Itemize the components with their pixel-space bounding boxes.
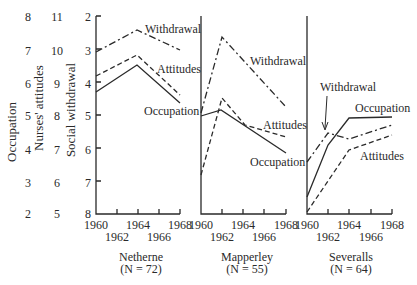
- x-ticks: [328, 209, 392, 214]
- year-label: 1966: [147, 230, 171, 244]
- netherne-occupation-label: Occupation: [144, 104, 199, 118]
- withdrawal-ticks: 2 3 4 5 6 7 8: [85, 10, 91, 221]
- year-label: 1966: [359, 230, 383, 244]
- mapperley-withdrawal-label: Withdrawal: [250, 54, 307, 68]
- tick-label: 9: [54, 77, 60, 91]
- tick-label: 8: [25, 10, 31, 24]
- withdrawal-axis-label: Social withdrawal: [63, 63, 78, 158]
- year-label: 1962: [210, 230, 234, 244]
- tick-label: 4: [25, 143, 31, 157]
- tick-label: 7: [54, 143, 60, 157]
- netherne-attitudes-label: Attitudes: [157, 62, 201, 76]
- year-label: 1962: [105, 230, 129, 244]
- attitudes-line: [307, 135, 392, 212]
- year-label: 1968: [380, 218, 404, 232]
- tick-label: 5: [54, 207, 60, 221]
- x-tick-labels: 1960 1964 1968 1962 1966 1960 1964 1968 …: [84, 218, 404, 244]
- severalls-attitudes-label: Attitudes: [360, 149, 404, 163]
- y-ticks: [96, 49, 101, 181]
- tick-label: 6: [85, 143, 91, 157]
- tick-label: 10: [51, 44, 63, 58]
- withdrawal-line: [201, 37, 286, 113]
- axes: [201, 16, 286, 214]
- tick-label: 3: [25, 176, 31, 190]
- tick-label: 5: [85, 109, 91, 123]
- panel-n-mapperley: (N = 55): [226, 262, 267, 276]
- x-ticks: [222, 209, 286, 214]
- tick-label: 11: [51, 10, 63, 24]
- netherne-withdrawal-label: Withdrawal: [145, 22, 202, 36]
- year-label: 1964: [337, 218, 361, 232]
- chart-figure: Occupation Nurses' attitudes Social with…: [0, 0, 417, 285]
- attitudes-ticks: 11 10 9 8 7 6 5: [51, 10, 63, 221]
- occupation-axis-label: Occupation: [4, 102, 19, 162]
- severalls-occupation-label: Occupation: [355, 101, 410, 115]
- panel-severalls: [307, 16, 392, 214]
- occupation-ticks: 8 7 6 5 4 3 2: [25, 10, 31, 221]
- panel-mapperley: [201, 16, 286, 214]
- mapperley-occupation-label: Occupation: [250, 155, 305, 169]
- panel-n-severalls: (N = 64): [330, 262, 371, 276]
- tick-label: 3: [85, 44, 91, 58]
- tick-label: 7: [85, 176, 91, 190]
- attitudes-axis-label: Nurses' attitudes: [31, 65, 46, 151]
- withdrawal-arrow: [325, 96, 327, 128]
- year-label: 1962: [316, 230, 340, 244]
- tick-label: 6: [54, 176, 60, 190]
- tick-label: 7: [25, 44, 31, 58]
- axes: [307, 16, 392, 214]
- tick-label: 8: [54, 109, 60, 123]
- mapperley-attitudes-label: Attitudes: [263, 118, 307, 132]
- x-ticks: [117, 209, 180, 214]
- tick-label: 2: [25, 207, 31, 221]
- panel-titles: Netherne (N = 72) Mapperley (N = 55) Sev…: [119, 250, 373, 276]
- panel-n-netherne: (N = 72): [120, 262, 161, 276]
- tick-label: 5: [25, 109, 31, 123]
- year-label: 1966: [252, 230, 276, 244]
- tick-label: 4: [85, 77, 91, 91]
- severalls-withdrawal-label: Withdrawal: [320, 80, 377, 94]
- tick-label: 2: [85, 10, 91, 24]
- tick-label: 6: [25, 77, 31, 91]
